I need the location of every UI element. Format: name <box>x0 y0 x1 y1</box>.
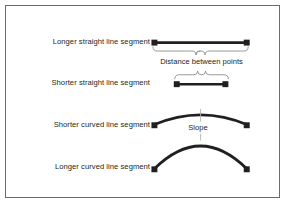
figure-frame: Longer straight line segment Shorter str… <box>5 5 280 198</box>
longer-straight-segment <box>151 40 249 46</box>
label-longer-straight-line-segment: Longer straight line segment <box>24 37 150 47</box>
shorter-straight-segment <box>174 81 229 87</box>
distance-brace-lower-icon <box>175 71 229 79</box>
annotation-slope: Slope <box>176 123 220 133</box>
annotation-distance-between-points: Distance between points <box>139 57 264 67</box>
longer-curved-segment <box>151 146 249 172</box>
distance-brace-upper-icon <box>153 47 248 55</box>
label-longer-curved-line-segment: Longer curved line segment <box>24 162 150 172</box>
label-shorter-curved-line-segment: Shorter curved line segment <box>24 120 150 130</box>
label-shorter-straight-line-segment: Shorter straight line segment <box>24 78 150 88</box>
